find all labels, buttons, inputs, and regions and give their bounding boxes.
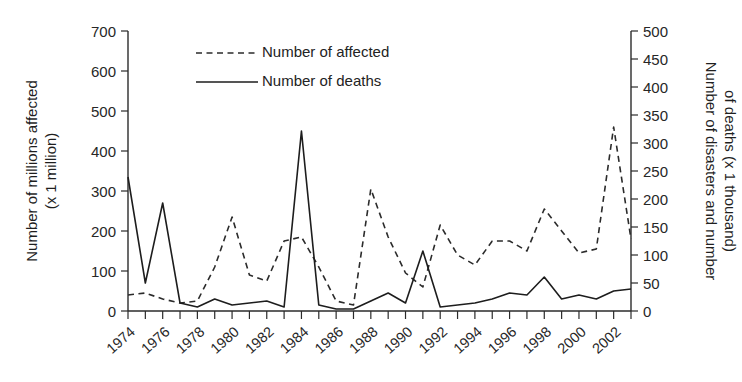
- right-tick-label: 250: [643, 163, 668, 180]
- right-axis-title: Number of disasters and number of deaths…: [703, 62, 739, 280]
- right-tick-label: 100: [643, 247, 668, 264]
- left-tick-label: 200: [91, 223, 116, 240]
- legend-label-affected: Number of affected: [262, 43, 389, 60]
- x-axis-tick-labels: 1974197619781980198219841986198819901992…: [103, 323, 623, 356]
- right-tick-label: 500: [643, 23, 668, 40]
- x-tick-label: 1974: [103, 323, 138, 356]
- left-axis-title: Number of millions affected (x 1 million…: [23, 80, 59, 261]
- x-tick-label: 1978: [173, 323, 208, 356]
- left-tick-label: 500: [91, 103, 116, 120]
- x-axis-ticks: [128, 311, 631, 319]
- x-tick-label: 1988: [346, 323, 381, 356]
- right-tick-label: 150: [643, 219, 668, 236]
- x-tick-label: 1986: [311, 323, 346, 356]
- left-axis-title-line2: (x 1 million): [42, 133, 59, 210]
- legend-label-deaths: Number of deaths: [262, 72, 381, 89]
- right-axis-ticks: 050100150200250300350400450500: [631, 23, 668, 320]
- right-tick-label: 0: [643, 303, 651, 320]
- left-tick-label: 100: [91, 263, 116, 280]
- chart-legend: Number of affected Number of deaths: [196, 43, 389, 89]
- x-tick-label: 1976: [138, 323, 173, 356]
- x-tick-label: 1996: [485, 323, 520, 356]
- chart-container: 0100200300400500600700 05010015020025030…: [0, 0, 742, 382]
- left-tick-label: 0: [108, 303, 116, 320]
- left-tick-label: 300: [91, 183, 116, 200]
- line-chart: 0100200300400500600700 05010015020025030…: [0, 0, 742, 382]
- right-tick-label: 450: [643, 51, 668, 68]
- right-axis-title-line2: of deaths (x 1 thousand): [722, 90, 739, 252]
- right-tick-label: 400: [643, 79, 668, 96]
- left-axis-ticks: 0100200300400500600700: [91, 23, 128, 320]
- x-tick-label: 1998: [520, 323, 555, 356]
- x-tick-label: 1992: [416, 323, 451, 356]
- right-tick-label: 200: [643, 191, 668, 208]
- x-tick-label: 2002: [589, 323, 624, 356]
- right-tick-label: 50: [643, 275, 660, 292]
- series-line-affected: [128, 127, 631, 305]
- x-tick-label: 1984: [277, 323, 312, 356]
- x-tick-label: 1980: [207, 323, 242, 356]
- x-tick-label: 1982: [242, 323, 277, 356]
- series-line-deaths: [128, 131, 631, 309]
- x-tick-label: 1994: [450, 323, 485, 356]
- left-tick-label: 600: [91, 63, 116, 80]
- right-axis-title-line1: Number of disasters and number: [703, 62, 720, 280]
- x-tick-label: 2000: [554, 323, 589, 356]
- left-axis-title-line1: Number of millions affected: [23, 80, 40, 261]
- left-tick-label: 700: [91, 23, 116, 40]
- right-tick-label: 350: [643, 107, 668, 124]
- left-tick-label: 400: [91, 143, 116, 160]
- x-tick-label: 1990: [381, 323, 416, 356]
- right-tick-label: 300: [643, 135, 668, 152]
